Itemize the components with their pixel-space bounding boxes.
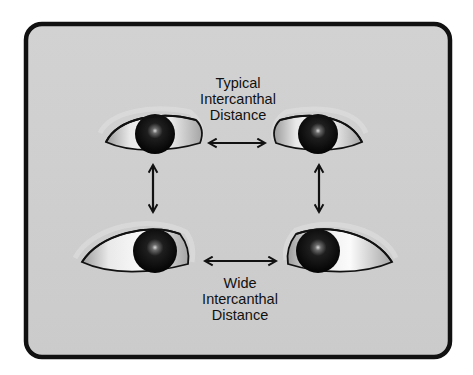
- bottom-caption-line-1: Wide: [223, 275, 256, 291]
- iris-icon: [133, 229, 177, 273]
- iris-icon: [135, 114, 175, 154]
- bottom-caption-line-3: Distance: [212, 307, 268, 323]
- iris-icon: [296, 229, 340, 273]
- top-caption-line-2: Intercanthal: [200, 91, 276, 107]
- top-caption-line-1: Typical: [215, 75, 260, 91]
- top-caption-line-3: Distance: [210, 107, 266, 123]
- iris-icon: [298, 114, 338, 154]
- bottom-caption-line-2: Intercanthal: [202, 291, 278, 307]
- diagram-canvas: Typical Intercanthal Distance Wide Inter…: [0, 0, 473, 375]
